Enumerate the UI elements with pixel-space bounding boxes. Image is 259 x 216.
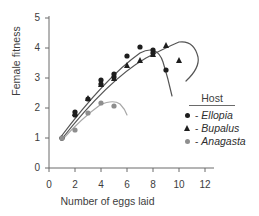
data-point (163, 42, 169, 48)
legend-label-anagasta: Anagasta (201, 135, 245, 147)
circle-dark-icon (183, 110, 194, 121)
x-axis-ticks (49, 168, 205, 172)
data-point (124, 53, 129, 58)
data-point (111, 103, 116, 108)
legend-dash: - (195, 123, 198, 134)
series-anagasta-points (59, 100, 116, 140)
legend-item-bupalus[interactable]: - Bupalus (183, 122, 259, 134)
data-point (176, 57, 182, 63)
legend-title: Host (189, 92, 235, 106)
data-point (137, 44, 142, 49)
data-point (59, 135, 64, 140)
legend-dash: - (195, 110, 198, 121)
triangle-dark-icon (183, 123, 194, 134)
legend-dash: - (195, 136, 198, 147)
legend: Host - Ellopia - Bupalus - Anagasta (183, 92, 259, 148)
data-point (163, 67, 168, 72)
data-point (98, 100, 103, 105)
data-point (85, 110, 90, 115)
legend-label-bupalus: Bupalus (201, 122, 239, 134)
y-axis-ticks (45, 18, 49, 168)
data-point (72, 127, 77, 132)
legend-item-anagasta[interactable]: - Anagasta (183, 135, 259, 147)
fit-curve-bupalus (61, 42, 198, 140)
legend-label-ellopia: Ellopia (201, 109, 233, 121)
chart-figure: Female fitness 5 4 3 2 1 0 0 2 4 6 8 10 … (0, 0, 259, 216)
legend-item-ellopia[interactable]: - Ellopia (183, 109, 259, 121)
series-bupalus-points (72, 42, 182, 116)
circle-gray-icon (183, 136, 194, 147)
fit-curve-anagasta (62, 102, 127, 140)
